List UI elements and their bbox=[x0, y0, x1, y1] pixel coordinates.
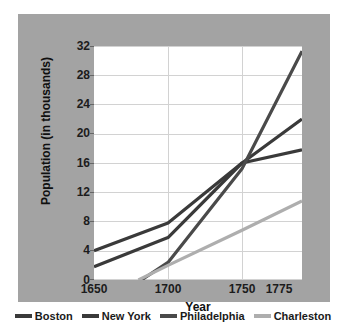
legend-swatch-icon bbox=[82, 314, 99, 318]
legend-label: New York bbox=[102, 310, 151, 322]
chart-panel: 32 28 24 20 16 12 8 4 0 bbox=[18, 14, 330, 302]
x-tick-label: 1650 bbox=[71, 283, 117, 296]
y-tick-label: 32 bbox=[56, 40, 90, 52]
y-tick-label: 12 bbox=[56, 186, 90, 198]
legend-swatch-icon bbox=[15, 314, 32, 318]
y-tick-label: 20 bbox=[56, 127, 90, 139]
legend-label: Philadelphia bbox=[180, 310, 245, 322]
plot-area bbox=[94, 46, 302, 280]
series-lines bbox=[94, 46, 302, 280]
x-tick-label: 1700 bbox=[145, 283, 191, 296]
y-tick-label: 28 bbox=[56, 69, 90, 81]
series-line-new-york bbox=[94, 119, 302, 267]
y-tick-label: 24 bbox=[56, 98, 90, 110]
x-tick-label: 1775 bbox=[256, 283, 302, 296]
legend-item-philadelphia[interactable]: Philadelphia bbox=[160, 310, 245, 322]
legend-item-new-york[interactable]: New York bbox=[82, 310, 151, 322]
series-line-philadelphia bbox=[141, 51, 302, 280]
y-tick-label: 8 bbox=[56, 215, 90, 227]
legend-swatch-icon bbox=[254, 314, 271, 318]
legend-item-charleston[interactable]: Charleston bbox=[254, 310, 331, 322]
chart-screenshot: 32 28 24 20 16 12 8 4 0 bbox=[0, 0, 346, 330]
legend-label: Charleston bbox=[274, 310, 331, 322]
y-tick-label: 4 bbox=[56, 244, 90, 256]
chart-legend: Boston New York Philadelphia Charleston bbox=[0, 305, 346, 327]
y-tick-label: 16 bbox=[56, 157, 90, 169]
y-axis-title: Population (in thousands) bbox=[39, 41, 53, 221]
legend-label: Boston bbox=[35, 310, 73, 322]
legend-swatch-icon bbox=[160, 314, 177, 318]
series-line-boston bbox=[94, 150, 302, 251]
y-axis-ticks: 32 28 24 20 16 12 8 4 0 bbox=[54, 46, 90, 280]
legend-item-boston[interactable]: Boston bbox=[15, 310, 73, 322]
